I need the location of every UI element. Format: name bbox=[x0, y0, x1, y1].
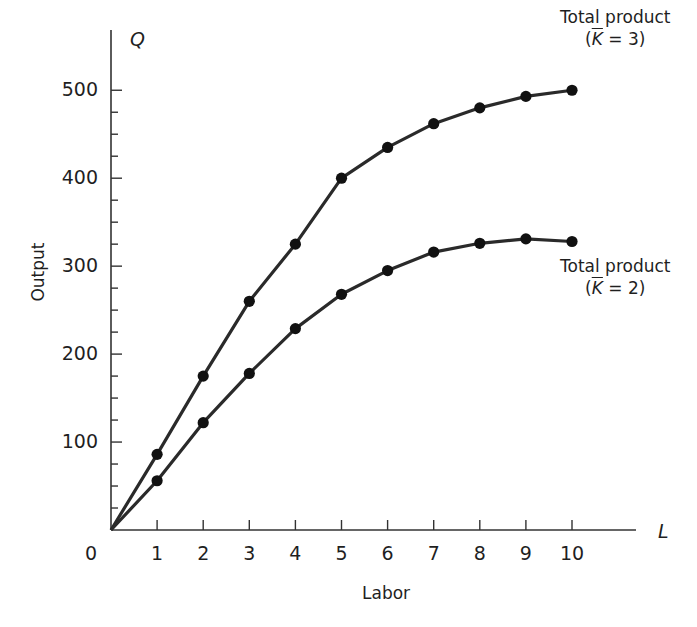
data-point bbox=[336, 173, 347, 184]
y-axis-symbol: Q bbox=[130, 28, 145, 50]
chart-canvas bbox=[0, 0, 697, 627]
series-line-0 bbox=[111, 90, 572, 530]
data-point bbox=[566, 236, 577, 247]
y-tick-label: 400 bbox=[38, 166, 98, 188]
x-tick-label: 3 bbox=[229, 542, 269, 564]
series-line-1 bbox=[111, 239, 572, 530]
x-tick-label: 5 bbox=[322, 542, 362, 564]
x-tick-label: 6 bbox=[368, 542, 408, 564]
series-label-k3-title: Total product bbox=[560, 6, 671, 28]
series-label-k3-param: (K = 3) bbox=[560, 28, 671, 50]
x-tick-label: 8 bbox=[460, 542, 500, 564]
x-tick-label: 1 bbox=[137, 542, 177, 564]
x-tick-label: 10 bbox=[552, 542, 592, 564]
x-axis-symbol: L bbox=[658, 520, 669, 542]
data-point bbox=[520, 233, 531, 244]
data-point bbox=[336, 289, 347, 300]
data-point bbox=[290, 239, 301, 250]
x-tick-label: 7 bbox=[414, 542, 454, 564]
y-tick-label: 100 bbox=[38, 430, 98, 452]
data-point bbox=[520, 91, 531, 102]
data-point bbox=[244, 368, 255, 379]
data-point bbox=[566, 85, 577, 96]
series-label-k2: Total product (K = 2) bbox=[560, 255, 671, 299]
y-tick-label: 200 bbox=[38, 342, 98, 364]
series-label-k3: Total product (K = 3) bbox=[560, 6, 671, 50]
data-point bbox=[428, 246, 439, 257]
x-axis-label: Labor bbox=[362, 582, 410, 604]
data-point bbox=[198, 370, 209, 381]
data-point bbox=[428, 118, 439, 129]
data-point bbox=[474, 102, 485, 113]
data-point bbox=[152, 475, 163, 486]
y-tick-label: 500 bbox=[38, 78, 98, 100]
data-point bbox=[244, 296, 255, 307]
x-tick-label: 4 bbox=[275, 542, 315, 564]
data-point bbox=[382, 265, 393, 276]
x-tick-label: 2 bbox=[183, 542, 223, 564]
data-point bbox=[474, 238, 485, 249]
data-point bbox=[198, 417, 209, 428]
y-tick-label: 300 bbox=[38, 254, 98, 276]
data-point bbox=[290, 323, 301, 334]
x-tick-label: 0 bbox=[71, 542, 111, 564]
series-label-k2-title: Total product bbox=[560, 255, 671, 277]
x-tick-label: 9 bbox=[506, 542, 546, 564]
data-point bbox=[152, 449, 163, 460]
series-label-k2-param: (K = 2) bbox=[560, 277, 671, 299]
data-point bbox=[382, 142, 393, 153]
